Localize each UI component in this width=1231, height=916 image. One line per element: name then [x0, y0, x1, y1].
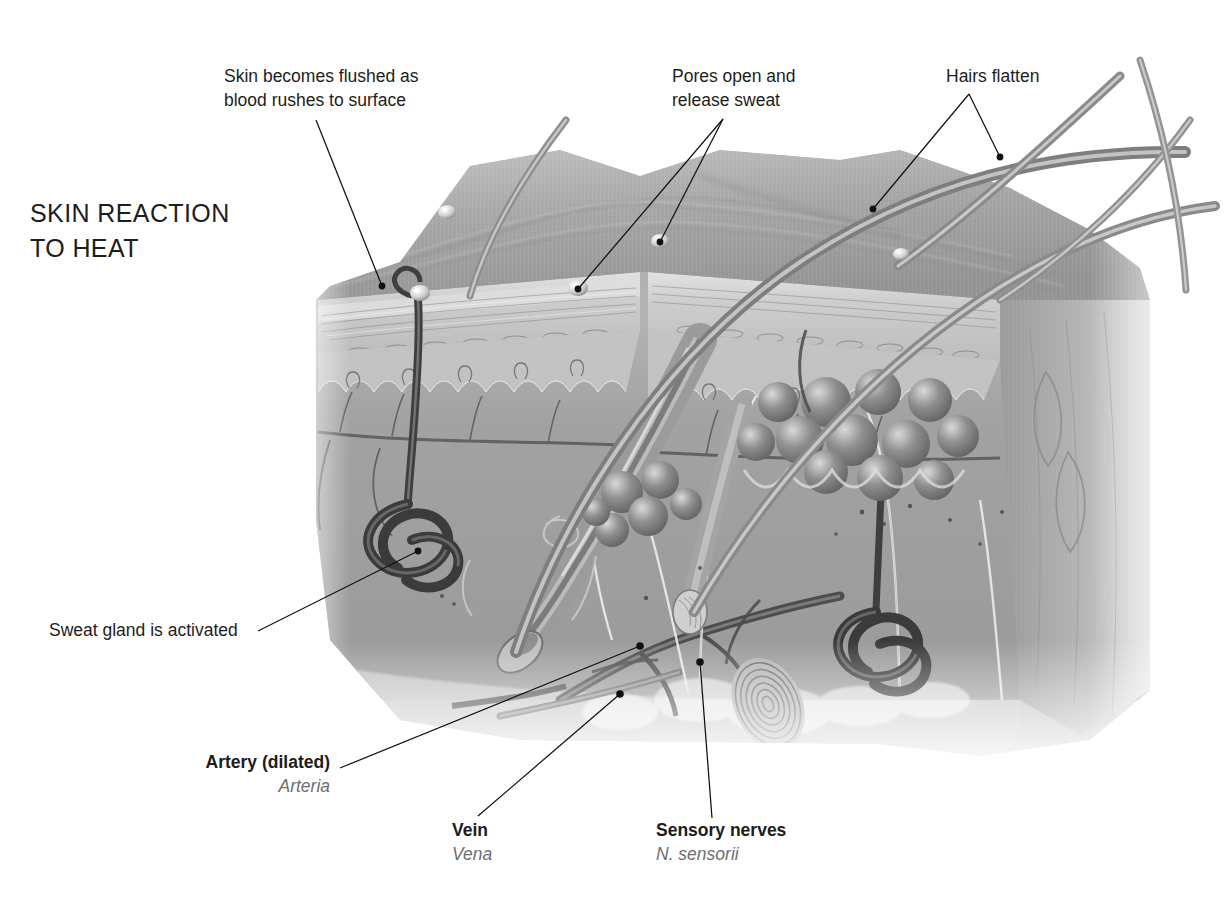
page-title-line2: TO HEAT — [30, 231, 330, 266]
label-artery-la: Arteria — [80, 774, 330, 798]
label-artery-en: Artery (dilated) — [80, 750, 330, 774]
label-skin-flushed: Skin becomes flushed as blood rushes to … — [224, 64, 419, 112]
label-sweat-gland-line1: Sweat gland is activated — [49, 618, 238, 642]
label-vein-la: Vena — [452, 842, 492, 866]
label-skin-flushed-line1: Skin becomes flushed as — [224, 64, 419, 88]
label-vein: Vein Vena — [452, 818, 492, 866]
label-pores-open-line2: release sweat — [672, 88, 796, 112]
label-hairs-flatten-line1: Hairs flatten — [946, 64, 1039, 88]
illustration-stage: SKIN REACTION TO HEAT Skin becomes flush… — [0, 0, 1231, 916]
label-pores-open-line1: Pores open and — [672, 64, 796, 88]
label-artery: Artery (dilated) Arteria — [80, 750, 330, 798]
label-sensory-nerves: Sensory nerves N. sensorii — [656, 818, 786, 866]
label-hairs-flatten: Hairs flatten — [946, 64, 1039, 88]
label-sensory-nerves-en: Sensory nerves — [656, 818, 786, 842]
label-sensory-nerves-la: N. sensorii — [656, 842, 786, 866]
label-skin-flushed-line2: blood rushes to surface — [224, 88, 419, 112]
page-title: SKIN REACTION TO HEAT — [30, 196, 330, 266]
page-title-line1: SKIN REACTION — [30, 196, 330, 231]
label-pores-open: Pores open and release sweat — [672, 64, 796, 112]
leader-hairs-b — [969, 94, 1000, 157]
label-sweat-gland: Sweat gland is activated — [49, 618, 238, 642]
label-vein-en: Vein — [452, 818, 492, 842]
